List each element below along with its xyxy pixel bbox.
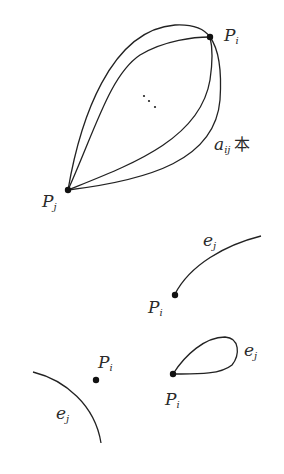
label-pj-top: Pj [42,193,57,212]
vertex-pj-top [65,187,71,193]
edge-inner-right [68,37,212,190]
vertex-pi-bottom-right [170,371,176,377]
edge-ej-middle [175,236,261,294]
label-pi-bottom-left: Pi [98,354,113,373]
label-ej-bottom-left: ej [56,405,69,424]
vertex-pi-middle [172,292,178,298]
diagram-drawing [0,0,284,474]
edge-outer-left [68,25,210,190]
label-ej-loop: ej [244,342,257,361]
vertex-pi-bottom-left [93,377,99,383]
edge-ej-loop [173,337,237,374]
label-multiplicity: aij本 [214,136,250,155]
label-pi-top: Pi [224,27,239,46]
label-ej-middle: ej [203,232,216,251]
edge-inner-left [68,37,210,190]
label-pi-middle: Pi [148,299,163,318]
vertex-pi-top [207,34,213,40]
edge-outer-right [68,37,221,190]
graph-diagram: Pi Pj aij本 ej Pi Pi ej ej Pi [0,0,284,474]
label-pi-bottom-right: Pi [165,391,180,410]
ellipsis-dots [143,95,156,108]
